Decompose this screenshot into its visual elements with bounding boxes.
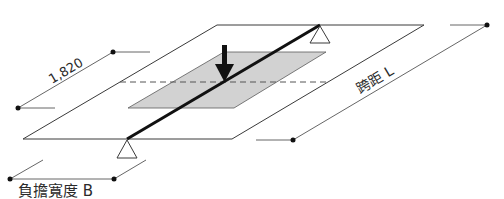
support-left-icon (117, 140, 137, 158)
dimension-1820-label: 1,820 (46, 55, 86, 87)
dimension-1820: 1,820 (16, 50, 151, 111)
load-diagram: 1,820 跨距 L 負擔寬度 B (0, 0, 504, 199)
load-width-B-label: 負擔寬度 B (18, 182, 93, 199)
dimension-width-B: 負擔寬度 B (8, 160, 147, 199)
